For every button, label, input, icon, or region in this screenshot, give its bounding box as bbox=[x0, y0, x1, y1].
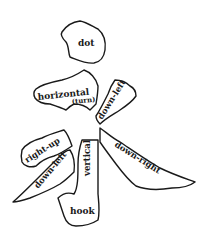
vertical-label: vertical bbox=[82, 139, 92, 177]
down-left-upper-stroke: down-left bbox=[95, 78, 136, 124]
dot-label: dot bbox=[78, 38, 95, 48]
horizontal-stroke: horizontal (turn) bbox=[34, 70, 98, 110]
down-right-stroke: down-right bbox=[100, 128, 195, 189]
stroke-diagram: dot horizontal (turn) down-left down-rig… bbox=[0, 0, 208, 235]
hook-label: hook bbox=[70, 206, 96, 216]
dot-stroke: dot bbox=[61, 21, 105, 63]
